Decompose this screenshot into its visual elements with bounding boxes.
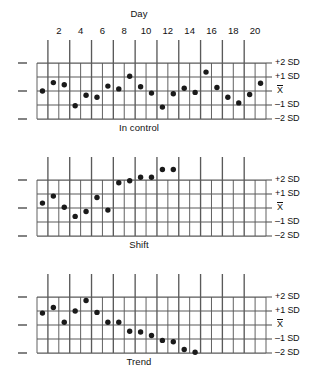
- data-point-panel2-day12: [160, 338, 165, 343]
- data-point-panel1-day11: [149, 175, 154, 180]
- sd-label-2SD-panel0: +2 SD: [275, 57, 300, 67]
- sd-label-1SD-panel1: –1 SD: [275, 216, 300, 226]
- sd-label-2SD-panel0: –2 SD: [275, 113, 300, 123]
- data-point-panel2-day2: [51, 305, 56, 310]
- data-point-panel0-day18: [225, 95, 230, 100]
- sd-label-2SD-panel2: –2 SD: [275, 347, 300, 357]
- day-tick-label-6: 6: [94, 25, 110, 36]
- data-point-panel2-day3: [62, 320, 67, 325]
- sd-label-mean-panel2: X: [277, 319, 283, 329]
- data-point-panel2-day13: [171, 339, 176, 344]
- data-point-panel0-day5: [83, 93, 88, 98]
- sd-label-mean-panel0: X: [277, 85, 283, 95]
- data-point-panel2-day8: [116, 320, 121, 325]
- data-point-panel2-day9: [127, 329, 132, 334]
- data-point-panel0-day11: [149, 90, 154, 95]
- data-point-panel0-day7: [105, 83, 110, 88]
- sd-label-1SD-panel0: –1 SD: [275, 99, 300, 109]
- data-point-panel0-day21: [258, 81, 263, 86]
- sd-label-1SD-panel1: +1 SD: [275, 188, 300, 198]
- day-tick-label-4: 4: [73, 25, 89, 36]
- data-point-panel2-day10: [138, 329, 143, 334]
- data-point-panel2-day11: [149, 333, 154, 338]
- data-point-panel1-day5: [83, 209, 88, 214]
- data-point-panel2-day15: [192, 350, 197, 355]
- data-point-panel0-day17: [214, 85, 219, 90]
- data-point-panel0-day1: [40, 88, 45, 93]
- data-point-panel2-day5: [83, 298, 88, 303]
- panel-caption-in-control: In control: [0, 122, 278, 133]
- data-point-panel0-day8: [116, 86, 121, 91]
- axis-title-day: Day: [0, 8, 278, 19]
- data-point-panel1-day8: [116, 180, 121, 185]
- sd-label-2SD-panel1: –2 SD: [275, 230, 300, 240]
- sd-label-mean-panel1: X: [277, 202, 283, 212]
- sd-label-2SD-panel1: +2 SD: [275, 174, 300, 184]
- data-point-panel0-day9: [127, 74, 132, 79]
- data-point-panel1-day2: [51, 193, 56, 198]
- data-point-panel0-day13: [171, 91, 176, 96]
- data-point-panel0-day20: [247, 92, 252, 97]
- data-point-panel2-day4: [72, 308, 77, 313]
- data-point-panel1-day10: [138, 175, 143, 180]
- data-point-panel0-day4: [72, 103, 77, 108]
- data-point-panel0-day16: [203, 69, 208, 74]
- day-tick-label-8: 8: [116, 25, 132, 36]
- sd-label-1SD-panel2: +1 SD: [275, 305, 300, 315]
- data-point-panel1-day6: [94, 195, 99, 200]
- data-point-panel1-day4: [72, 214, 77, 219]
- sd-label-1SD-panel2: –1 SD: [275, 333, 300, 343]
- data-point-panel2-day14: [182, 347, 187, 352]
- data-point-panel1-day1: [40, 200, 45, 205]
- panel-caption-shift: Shift: [0, 239, 278, 250]
- data-point-panel0-day15: [192, 90, 197, 95]
- data-point-panel1-day9: [127, 178, 132, 183]
- data-point-panel1-day3: [62, 205, 67, 210]
- data-point-panel0-day2: [51, 80, 56, 85]
- data-point-panel0-day6: [94, 95, 99, 100]
- data-point-panel1-day7: [105, 207, 110, 212]
- data-point-panel1-day12: [160, 167, 165, 172]
- day-tick-label-18: 18: [225, 25, 241, 36]
- day-tick-label-14: 14: [182, 25, 198, 36]
- data-point-panel0-day14: [182, 86, 187, 91]
- sd-label-2SD-panel2: +2 SD: [275, 291, 300, 301]
- day-tick-label-20: 20: [247, 25, 263, 36]
- control-chart-figure: +2 SD+1 SDX–1 SD–2 SDIn control+2 SD+1 S…: [0, 0, 328, 377]
- data-point-panel0-day19: [236, 100, 241, 105]
- data-point-panel2-day7: [105, 320, 110, 325]
- data-point-panel2-day1: [40, 310, 45, 315]
- day-tick-label-2: 2: [51, 25, 67, 36]
- data-point-panel2-day6: [94, 310, 99, 315]
- panel-caption-trend: Trend: [0, 356, 278, 367]
- day-tick-label-16: 16: [203, 25, 219, 36]
- data-point-panel1-day13: [171, 167, 176, 172]
- sd-label-1SD-panel0: +1 SD: [275, 71, 300, 81]
- day-tick-label-10: 10: [138, 25, 154, 36]
- data-point-panel0-day10: [138, 84, 143, 89]
- data-point-panel0-day12: [160, 104, 165, 109]
- day-tick-label-12: 12: [160, 25, 176, 36]
- data-point-panel0-day3: [62, 82, 67, 87]
